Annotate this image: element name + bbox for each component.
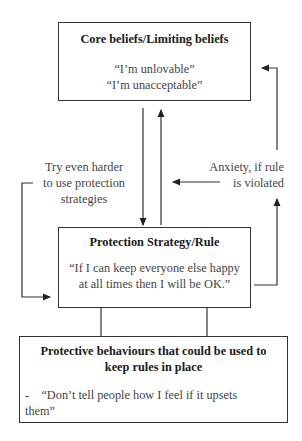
label-line: strategies — [39, 191, 129, 207]
rule-line: “If I can keep everyone else happy — [59, 260, 250, 276]
anxiety-label: Anxiety, if rule is violated — [200, 159, 284, 191]
protective-behaviours-title: Protective behaviours that could be used… — [20, 343, 287, 375]
behaviour-item: - “Don’t tell people how I feel if it up… — [20, 387, 287, 419]
protection-rule-text: “If I can keep everyone else happy at al… — [59, 260, 250, 292]
protective-behaviours-box: Protective behaviours that could be used… — [19, 336, 288, 423]
core-beliefs-box: Core beliefs/Limiting beliefs “I’m unlov… — [58, 22, 251, 101]
core-beliefs-lines: “I’m unlovable” “I’m unacceptable” — [59, 61, 250, 93]
arrow-right-loop-upper — [262, 68, 277, 150]
protection-strategy-title: Protection Strategy/Rule — [59, 235, 250, 250]
label-line: Try even harder — [39, 159, 129, 175]
title-line: Protective behaviours that could be used… — [20, 343, 287, 359]
belief-line: “I’m unacceptable” — [59, 77, 250, 93]
arrow-right-loop-lower — [254, 199, 277, 285]
rule-line: at all times then I will be OK.” — [59, 276, 250, 292]
core-beliefs-title: Core beliefs/Limiting beliefs — [59, 32, 250, 47]
belief-line: “I’m unlovable” — [59, 61, 250, 77]
label-line: Anxiety, if rule — [200, 159, 284, 175]
title-line: keep rules in place — [20, 359, 287, 375]
label-line: to use protection — [39, 175, 129, 191]
label-line: is violated — [200, 175, 284, 191]
try-harder-label: Try even harder to use protection strate… — [39, 159, 129, 207]
protection-strategy-box: Protection Strategy/Rule “If I can keep … — [58, 227, 251, 308]
behaviour-line: them” — [25, 403, 287, 419]
behaviour-line: - “Don’t tell people how I feel if it up… — [25, 387, 287, 403]
